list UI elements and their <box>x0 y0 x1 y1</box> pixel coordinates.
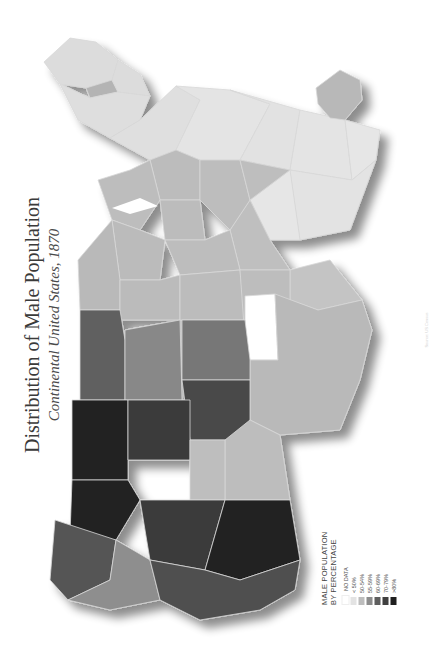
state-maine <box>44 38 118 88</box>
state-wyoming <box>128 400 190 460</box>
legend-swatch <box>374 597 380 605</box>
state-indiana <box>160 200 205 240</box>
state-nebraska <box>125 320 182 400</box>
legend-item: 60-69% <box>374 505 381 605</box>
legend: MALE POPULATION BY PERCENTAGE NO DATA < … <box>318 500 398 610</box>
source-note: Source: US Census <box>418 60 434 600</box>
state-montana <box>72 400 128 480</box>
legend-item: 50-54% <box>358 505 365 605</box>
legend-title-line1: MALE POPULATION <box>320 505 329 605</box>
state-north-carolina <box>290 110 352 180</box>
map-page: Distribution of Male Population Continen… <box>0 0 444 659</box>
state-dakota-territory <box>80 310 125 400</box>
state-michigan <box>98 160 160 230</box>
legend-swatch <box>358 597 364 605</box>
legend-item: 70-79% <box>382 505 389 605</box>
state-iowa <box>120 275 180 320</box>
legend-swatch <box>341 595 349 605</box>
state-missouri <box>180 270 245 320</box>
state-utah <box>190 440 225 500</box>
source-text: Source: US Census <box>424 312 429 347</box>
state-kansas <box>182 320 250 380</box>
legend-item: >80% <box>390 505 397 605</box>
legend-swatch <box>350 597 356 605</box>
legend-item: < 50% <box>350 505 357 605</box>
state-florida <box>316 70 362 120</box>
state-massachusetts <box>112 60 150 96</box>
legend-item: 55-59% <box>366 505 373 605</box>
state-minnesota <box>78 220 120 310</box>
legend-swatch <box>390 597 396 605</box>
legend-swatch <box>382 597 388 605</box>
legend-swatch <box>366 597 372 605</box>
state-indian-territory <box>245 294 278 360</box>
legend-item: NO DATA <box>342 505 349 605</box>
legend-title-line2: BY PERCENTAGE <box>329 505 338 605</box>
